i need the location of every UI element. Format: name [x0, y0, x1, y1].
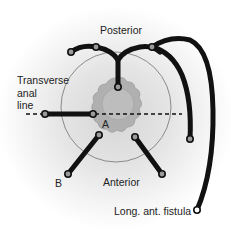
opening-node [115, 84, 121, 90]
long-anterior-fistula-tract [152, 39, 213, 210]
opening-node [159, 171, 165, 177]
opening-node [42, 111, 48, 117]
label-transverse: Transverse [17, 74, 69, 86]
posterior-curved-tract [152, 47, 190, 139]
label-anterior: Anterior [103, 176, 140, 188]
opening-node [90, 111, 96, 117]
opening-node [65, 171, 71, 177]
label-line: line [17, 99, 33, 111]
opening-node [93, 44, 99, 50]
label-posterior: Posterior [100, 24, 142, 36]
label-long-anterior-fistula: Long. ant. fistula [114, 205, 191, 217]
opening-node [187, 136, 193, 142]
label-a: A [102, 118, 109, 130]
label-anal: anal [17, 87, 37, 99]
opening-node [68, 49, 74, 55]
opening-node [194, 207, 200, 213]
opening-node [132, 134, 138, 140]
anal-canal-inner [102, 88, 134, 120]
opening-node [149, 44, 155, 50]
opening-node [96, 132, 102, 138]
label-b: B [55, 177, 62, 189]
